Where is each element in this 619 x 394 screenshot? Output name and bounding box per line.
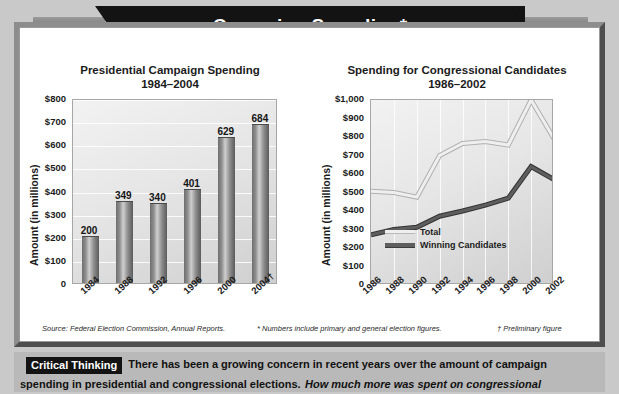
chart1-y-tick: $500 <box>316 186 364 197</box>
gridline <box>73 100 276 101</box>
bar <box>218 137 235 283</box>
chart1-y-tick: $900 <box>316 112 364 123</box>
chart1-y-tick: $1,000 <box>316 93 364 104</box>
critical-thinking-panel: Critical ThinkingThere has been a growin… <box>14 352 605 392</box>
chart1-y-tick: $300 <box>316 223 364 234</box>
bar <box>252 124 269 283</box>
legend-item: Winning Candidates <box>385 240 506 250</box>
chart0-y-tick: 0 <box>26 278 66 289</box>
bar-value-label: 340 <box>139 192 175 203</box>
chart1-plot-area: TotalWinning Candidates <box>370 99 553 284</box>
chart0-y-tick: $500 <box>26 162 66 173</box>
chart0-y-tick: $100 <box>26 255 66 266</box>
gridline <box>73 262 276 263</box>
bar-value-label: 684 <box>242 113 278 124</box>
chart1-y-tick: $400 <box>316 204 364 215</box>
legend-label: Winning Candidates <box>420 240 506 250</box>
chart0-y-tick: $300 <box>26 209 66 220</box>
chart1-y-tick: 0 <box>316 278 364 289</box>
footnote-source: Source: Federal Election Commission, Ann… <box>42 324 225 333</box>
legend-item: Total <box>385 227 506 237</box>
gridline <box>73 146 276 147</box>
chart-congressional-candidates-spending: Spending for Congressional Candidates 19… <box>316 64 598 321</box>
chart0-y-tick: $700 <box>26 116 66 127</box>
chart1-y-tick: $200 <box>316 241 364 252</box>
critical-thinking-badge: Critical Thinking <box>26 357 122 374</box>
series-outline <box>371 167 553 235</box>
bar <box>116 201 133 283</box>
chart1-series-lines <box>371 100 553 284</box>
chart0-y-tick: $600 <box>26 139 66 150</box>
gridline <box>73 239 276 240</box>
chart1-y-tick: $600 <box>316 167 364 178</box>
infographic-page: Campaign Spending* Presidential Campaign… <box>0 0 619 394</box>
gridline <box>73 216 276 217</box>
series-outline <box>371 100 553 197</box>
bar-value-label: 349 <box>105 190 141 201</box>
bar-value-label: 200 <box>71 225 107 236</box>
chart1-legend: TotalWinning Candidates <box>385 227 506 253</box>
chart1-subtitle: 1986–2002 <box>316 78 598 92</box>
chart1-y-tick: $100 <box>316 260 364 271</box>
bar-value-label: 401 <box>174 178 210 189</box>
chart0-y-tick: $800 <box>26 93 66 104</box>
critical-thinking-paragraph: Critical ThinkingThere has been a growin… <box>20 354 597 392</box>
chart-presidential-campaign-spending: Presidential Campaign Spending 1984–2004… <box>26 64 314 321</box>
chart1-y-tick: $800 <box>316 130 364 141</box>
legend-swatch <box>385 230 415 234</box>
gridline <box>73 169 276 170</box>
legend-swatch <box>385 243 415 248</box>
chart1-y-tick: $700 <box>316 149 364 160</box>
chart0-y-tick: $400 <box>26 186 66 197</box>
content-panel: Presidential Campaign Spending 1984–2004… <box>19 27 600 342</box>
footnote-dagger: † Preliminary figure <box>497 324 562 333</box>
chart0-title: Presidential Campaign Spending <box>26 64 314 78</box>
footnote-asterisk: * Numbers include primary and general el… <box>257 324 442 333</box>
bar <box>150 203 167 283</box>
chart0-subtitle: 1984–2004 <box>26 78 314 92</box>
bar <box>184 189 201 283</box>
legend-label: Total <box>420 227 441 237</box>
bar-value-label: 629 <box>208 126 244 137</box>
critical-thinking-question: How much more was spent on congressional <box>305 378 541 390</box>
chart0-y-tick: $200 <box>26 232 66 243</box>
chart1-title: Spending for Congressional Candidates <box>316 64 598 78</box>
